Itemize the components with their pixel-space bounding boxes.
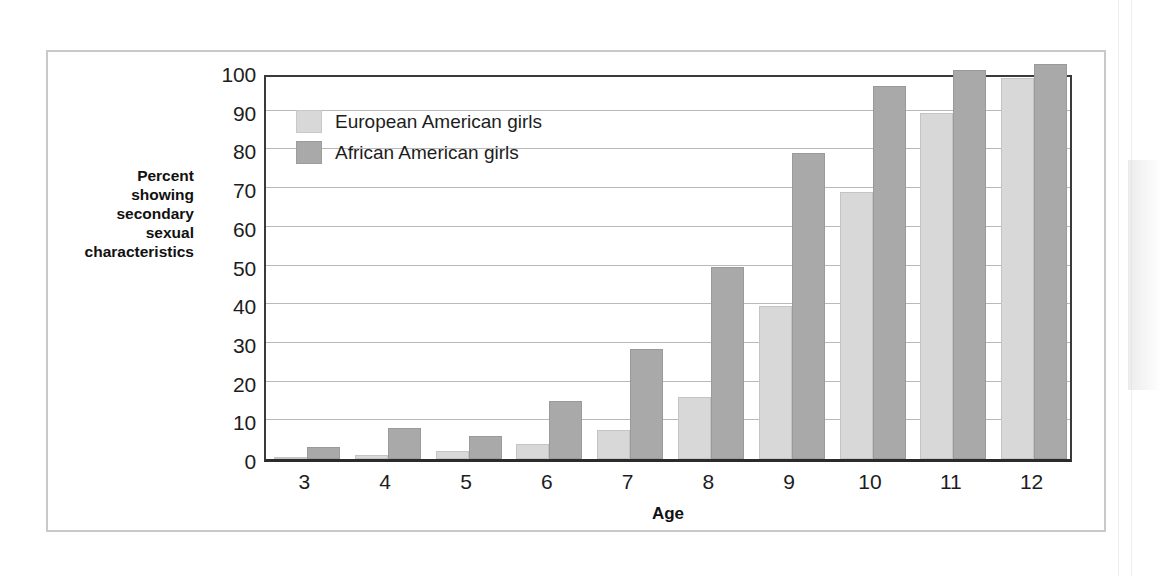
- bar-african-american-age-6: [549, 401, 582, 459]
- bar-european-american-age-5: [436, 451, 469, 459]
- x-axis-tick-labels: 3456789101112: [264, 470, 1072, 500]
- bar-african-american-age-10: [873, 86, 906, 459]
- x-tick-label-5: 5: [460, 470, 472, 494]
- x-tick-label-8: 8: [703, 470, 715, 494]
- x-tick-label-6: 6: [541, 470, 553, 494]
- bar-european-american-age-10: [840, 192, 873, 459]
- bar-european-american-age-11: [920, 113, 953, 459]
- bar-african-american-age-8: [711, 267, 744, 459]
- y-tick-label-60: 60: [233, 218, 256, 242]
- y-tick-label-100: 100: [222, 63, 256, 87]
- bar-european-american-age-3: [274, 457, 307, 459]
- legend-item-european-american-girls: European American girls: [296, 106, 626, 137]
- bar-european-american-age-7: [597, 430, 630, 459]
- bar-chart: Percent showing secondary sexual charact…: [0, 0, 1162, 576]
- y-tick-label-50: 50: [233, 257, 256, 281]
- legend-label-european-american: European American girls: [335, 111, 542, 133]
- y-axis-title: Percent showing secondary sexual charact…: [24, 166, 194, 261]
- y-tick-label-40: 40: [233, 295, 256, 319]
- x-tick-label-12: 12: [1020, 470, 1043, 494]
- bar-african-american-age-12: [1034, 64, 1067, 459]
- bar-european-american-age-4: [355, 455, 388, 459]
- y-axis-title-line-2: showing: [24, 185, 194, 204]
- y-axis-title-line-1: Percent: [24, 166, 194, 185]
- y-tick-label-90: 90: [233, 102, 256, 126]
- y-axis-tick-labels: 0102030405060708090100: [196, 0, 256, 576]
- legend-swatch-icon-european-american: [296, 110, 322, 133]
- x-tick-label-3: 3: [299, 470, 311, 494]
- bar-european-american-age-8: [678, 397, 711, 459]
- bar-group-age-8: [670, 77, 751, 459]
- legend-swatch-icon-african-american: [296, 141, 322, 164]
- bar-group-age-9: [751, 77, 832, 459]
- x-tick-label-4: 4: [379, 470, 391, 494]
- x-tick-label-11: 11: [940, 470, 962, 494]
- x-tick-label-10: 10: [858, 470, 881, 494]
- y-axis-title-line-5: characteristics: [24, 242, 194, 261]
- bar-african-american-age-4: [388, 428, 421, 459]
- bar-african-american-age-3: [307, 447, 340, 459]
- bar-african-american-age-9: [792, 153, 825, 459]
- x-tick-label-7: 7: [622, 470, 634, 494]
- y-tick-label-70: 70: [233, 179, 256, 203]
- bar-european-american-age-6: [516, 444, 549, 459]
- y-tick-label-30: 30: [233, 334, 256, 358]
- y-axis-title-line-4: sexual: [24, 223, 194, 242]
- bar-group-age-12: [993, 77, 1074, 459]
- bar-african-american-age-11: [953, 70, 986, 459]
- bar-african-american-age-7: [630, 349, 663, 459]
- y-tick-label-0: 0: [245, 450, 256, 474]
- legend: European American girls African American…: [296, 106, 626, 168]
- bar-group-age-10: [832, 77, 913, 459]
- bar-european-american-age-12: [1001, 78, 1034, 459]
- y-axis-title-line-3: secondary: [24, 204, 194, 223]
- x-axis-title: Age: [264, 504, 1072, 524]
- y-tick-label-20: 20: [233, 373, 256, 397]
- bar-african-american-age-5: [469, 436, 502, 459]
- bar-group-age-11: [912, 77, 993, 459]
- legend-label-african-american: African American girls: [335, 142, 519, 164]
- bar-european-american-age-9: [759, 306, 792, 459]
- x-tick-label-9: 9: [783, 470, 795, 494]
- y-tick-label-10: 10: [233, 411, 256, 435]
- legend-item-african-american-girls: African American girls: [296, 137, 626, 168]
- y-tick-label-80: 80: [233, 140, 256, 164]
